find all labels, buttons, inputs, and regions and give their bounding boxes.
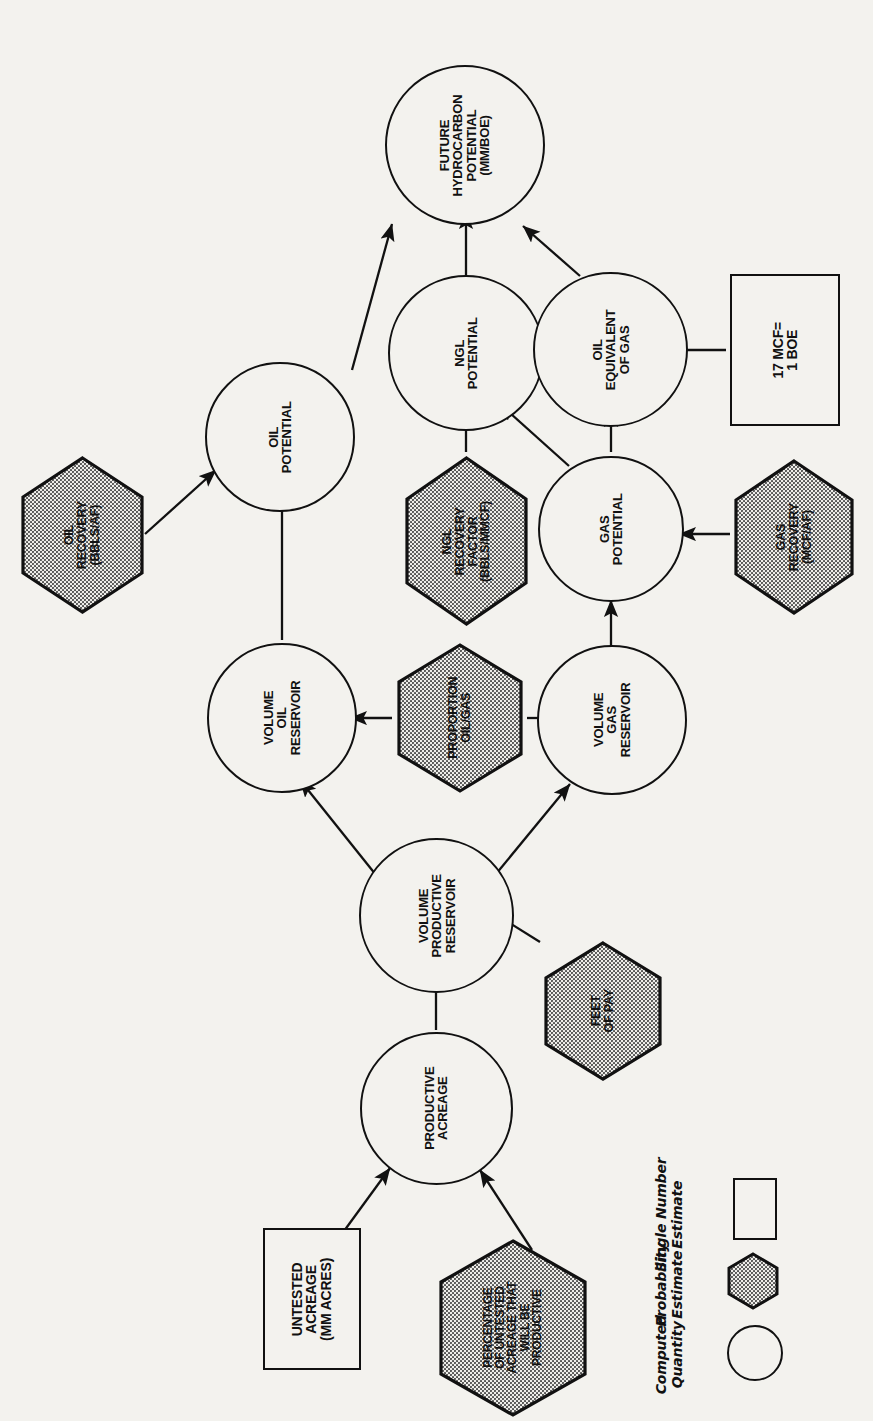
hex-label: OIL RECOVERY (BBLS/AF) <box>63 501 101 569</box>
node-future-hydrocarbon-potential[interactable]: FUTURE HYDROCARBON POTENTIAL (MM/BOE) <box>385 65 545 225</box>
legend-swatch-circle <box>727 1325 783 1381</box>
hex-proportion-oil-gas[interactable]: PROPORTION OIL/GAS <box>396 642 524 794</box>
link-oilequiv-to-future <box>523 226 580 276</box>
node-gas-potential[interactable]: GAS POTENTIAL <box>538 456 684 602</box>
diagram-canvas: FUTURE HYDROCARBON POTENTIAL (MM/BOE) OI… <box>0 0 873 1421</box>
link-oilrecovery-to-oilpotential <box>145 470 216 534</box>
box-conversion-factor[interactable]: 17 MCF= 1 BOE <box>730 274 840 426</box>
box-untested-acreage[interactable]: UNTESTED ACREAGE (MM ACRES) <box>263 1228 361 1370</box>
node-ngl-potential[interactable]: NGL POTENTIAL <box>388 275 544 431</box>
link-oilpotential-to-future <box>352 224 392 370</box>
node-label: FUTURE HYDROCARBON POTENTIAL (MM/BOE) <box>439 94 492 196</box>
node-label: VOLUME PRODUCTIVE RESERVOIR <box>417 874 457 957</box>
node-label: GAS POTENTIAL <box>598 493 625 565</box>
node-label: NGL POTENTIAL <box>453 317 480 389</box>
hex-label: GAS RECOVERY (MCF/AF) <box>775 503 813 571</box>
legend-swatch-rectangle <box>733 1178 777 1240</box>
node-oil-potential[interactable]: OIL POTENTIAL <box>205 362 355 512</box>
node-label: PRODUCTIVE ACREAGE <box>423 1067 450 1150</box>
node-label: OIL POTENTIAL <box>267 401 294 473</box>
hex-percentage-productive[interactable]: PERCENTAGE OF UNTESTED ACREAGE THAT WILL… <box>438 1238 588 1418</box>
node-volume-oil-reservoir[interactable]: VOLUME OIL RESERVOIR <box>207 643 357 793</box>
hex-label: NGL RECOVERY FACTOR (BBLS/MMCF) <box>441 500 492 581</box>
link-volprod-to-voloil <box>300 780 380 880</box>
hex-label: PROPORTION OIL/GAS <box>447 677 473 759</box>
legend-label-computed-quantity: Computed Quantity <box>615 1300 725 1410</box>
node-volume-gas-reservoir[interactable]: VOLUME GAS RESERVOIR <box>537 645 687 795</box>
hex-label: FEET OF PAY <box>590 989 616 1032</box>
node-label: OIL EQUIVALENT OF GAS <box>591 309 631 390</box>
legend: Single Number Estimate Probability Estim… <box>615 1140 865 1390</box>
node-label: VOLUME OIL RESERVOIR <box>262 681 302 756</box>
hex-ngl-recovery-factor[interactable]: NGL RECOVERY FACTOR (BBLS/MMCF) <box>404 455 529 627</box>
legend-swatch-hexagon <box>727 1252 779 1310</box>
hex-gas-recovery[interactable]: GAS RECOVERY (MCF/AF) <box>733 458 855 616</box>
node-productive-acreage[interactable]: PRODUCTIVE ACREAGE <box>360 1032 513 1185</box>
box-label: UNTESTED ACREAGE (MM ACRES) <box>291 1257 334 1340</box>
node-oil-equivalent-of-gas[interactable]: OIL EQUIVALENT OF GAS <box>533 272 688 427</box>
node-volume-productive-reservoir[interactable]: VOLUME PRODUCTIVE RESERVOIR <box>359 838 514 993</box>
hex-oil-recovery[interactable]: OIL RECOVERY (BBLS/AF) <box>20 455 145 615</box>
node-label: VOLUME GAS RESERVOIR <box>592 683 632 758</box>
hex-label: PERCENTAGE OF UNTESTED ACREAGE THAT WILL… <box>482 1282 543 1374</box>
hex-feet-of-pay[interactable]: FEET OF PAY <box>543 940 663 1082</box>
link-volprod-to-volgas <box>496 784 570 874</box>
box-label: 17 MCF= 1 BOE <box>771 322 800 379</box>
